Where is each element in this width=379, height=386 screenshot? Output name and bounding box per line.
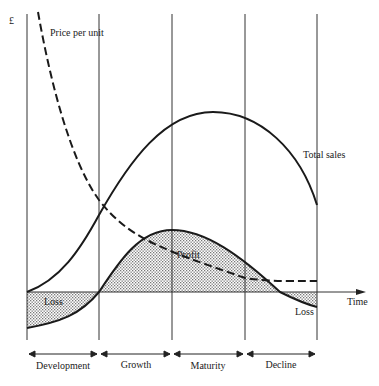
profit-area <box>99 230 280 292</box>
y-axis-symbol: £ <box>9 15 14 26</box>
phase-growth: Growth <box>121 359 152 370</box>
total-sales-label: Total sales <box>303 149 345 160</box>
loss-area-left <box>27 292 99 328</box>
price-label: Price per unit <box>50 27 104 38</box>
phase-maturity: Maturity <box>191 360 226 371</box>
phase-development: Development <box>36 360 90 371</box>
phase-decline: Decline <box>265 359 297 370</box>
phase-arrows <box>29 351 315 357</box>
product-lifecycle-diagram: £ Price per unit Total sales Profit Loss… <box>0 0 379 386</box>
loss-label-right: Loss <box>295 306 314 317</box>
loss-label-left: Loss <box>44 296 63 307</box>
time-label: Time <box>347 296 368 307</box>
profit-label: Profit <box>177 249 200 260</box>
time-axis-arrow-icon <box>356 289 366 295</box>
